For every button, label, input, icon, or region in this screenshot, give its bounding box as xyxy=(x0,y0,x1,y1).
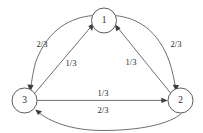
node-1[interactable]: 1 xyxy=(92,8,117,33)
edge-2-to-3: 2/3 xyxy=(35,105,181,131)
edge-1-to-2-path xyxy=(116,16,176,89)
graph-canvas: 2/3 1/3 2/3 1/3 1/3 xyxy=(0,0,203,133)
edge-2-to-1-label: 1/3 xyxy=(126,57,137,67)
edge-1-to-3-label: 2/3 xyxy=(37,39,48,49)
edge-2-to-1: 1/3 xyxy=(115,24,171,93)
edge-3-to-2-arrowhead xyxy=(161,98,168,103)
edge-3-to-2: 1/3 xyxy=(37,88,168,103)
node-3-label: 3 xyxy=(22,95,27,105)
edge-1-to-3: 2/3 xyxy=(27,16,92,92)
edge-1-to-3-path xyxy=(31,16,93,89)
node-2[interactable]: 2 xyxy=(168,88,193,113)
edge-2-to-3-label: 2/3 xyxy=(98,105,109,115)
edge-2-to-3-path xyxy=(38,112,182,131)
edge-3-to-2-label: 1/3 xyxy=(98,88,109,98)
edge-3-to-1-label: 1/3 xyxy=(66,58,77,68)
edge-3-to-1: 1/3 xyxy=(35,24,94,94)
state-transition-diagram: 2/3 1/3 2/3 1/3 1/3 xyxy=(0,0,203,133)
node-3[interactable]: 3 xyxy=(12,88,37,113)
edge-1-to-2-label: 2/3 xyxy=(171,39,182,49)
node-1-label: 1 xyxy=(102,15,107,25)
node-2-label: 2 xyxy=(178,95,183,105)
edge-1-to-2: 2/3 xyxy=(116,16,182,92)
edge-3-to-1-path xyxy=(35,26,92,93)
